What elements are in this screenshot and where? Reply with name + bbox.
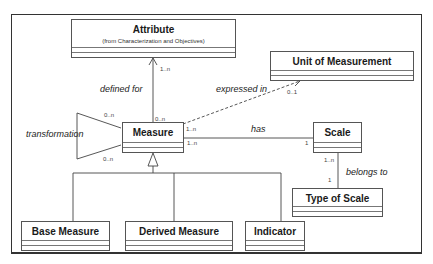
class-derived-measure-name: Derived Measure (126, 222, 232, 238)
mult-expressed-in-source: 1..n (186, 126, 196, 133)
class-indicator-operations (246, 245, 304, 250)
mult-has-source: 1..n (187, 140, 197, 147)
class-attribute[interactable]: Attribute (from Characterization and Obj… (71, 19, 236, 58)
class-unit-of-measurement[interactable]: Unit of Measurement (270, 51, 414, 81)
class-unit-of-measurement-name: Unit of Measurement (271, 52, 413, 68)
label-defined-for: defined for (100, 84, 143, 94)
generalization-triangle (148, 153, 158, 166)
mult-transformation-top: 0..n (104, 112, 114, 119)
class-scale-operations (314, 147, 361, 152)
class-scale-name: Scale (314, 123, 361, 139)
mult-expressed-in-target: 0..1 (287, 89, 297, 96)
class-base-measure-operations (22, 245, 109, 250)
class-base-measure-name: Base Measure (22, 222, 109, 238)
class-attribute-stereotype: (from Characterization and Objectives) (72, 37, 235, 45)
label-belongs-to: belongs to (346, 167, 388, 177)
class-base-measure[interactable]: Base Measure (21, 221, 110, 251)
class-attribute-name: Attribute (72, 20, 235, 36)
class-type-of-scale-name: Type of Scale (293, 189, 382, 205)
mult-belongs-to-source: 1..n (324, 157, 334, 164)
class-scale[interactable]: Scale (313, 122, 362, 153)
mult-defined-for-source: 0..n (155, 116, 165, 123)
class-indicator[interactable]: Indicator (245, 221, 305, 251)
class-measure-operations (123, 147, 183, 152)
label-has: has (251, 124, 266, 134)
label-expressed-in: expressed in (216, 84, 267, 94)
mult-transformation-bottom: 0..n (103, 156, 113, 163)
transformation-line (77, 113, 121, 159)
class-attribute-operations (72, 52, 235, 57)
mult-belongs-to-target: 1 (328, 177, 331, 184)
class-type-of-scale-operations (293, 211, 382, 216)
class-type-of-scale[interactable]: Type of Scale (292, 188, 383, 217)
mult-has-target: 1 (305, 140, 308, 147)
class-derived-measure-operations (126, 245, 232, 250)
class-derived-measure[interactable]: Derived Measure (125, 221, 233, 251)
class-indicator-name: Indicator (246, 222, 304, 238)
label-transformation: transformation (26, 129, 84, 139)
class-unit-of-measurement-operations (271, 75, 413, 80)
class-measure[interactable]: Measure (122, 122, 184, 153)
mult-defined-for-target: 1..n (160, 66, 170, 73)
class-measure-name: Measure (123, 123, 183, 139)
